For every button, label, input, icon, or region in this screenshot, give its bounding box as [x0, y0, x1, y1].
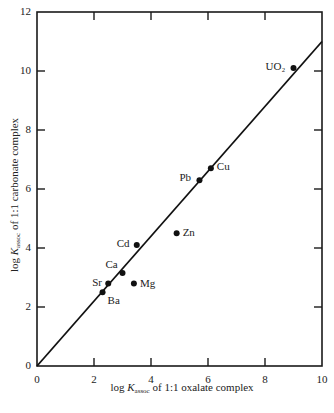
data-point-cu	[208, 165, 214, 171]
point-label: Pb	[179, 172, 191, 183]
point-label: Sr	[92, 277, 102, 288]
point-label: Ca	[106, 259, 118, 270]
data-point-ba	[100, 289, 106, 295]
x-axis-label: log Kassoc of 1:1 oxalate complex	[0, 381, 334, 395]
y-axis-label: log Kassoc of 1:1 carbonate complex	[8, 75, 22, 315]
data-point-zn	[174, 230, 180, 236]
data-point-pb	[196, 177, 202, 183]
data-point-uo	[291, 65, 297, 71]
regression-line	[37, 42, 322, 367]
point-label: UO₂	[266, 61, 286, 72]
y-tick-label: 12	[11, 6, 31, 17]
point-label: Ba	[108, 295, 120, 306]
point-label: Zn	[183, 227, 195, 238]
data-point-sr	[105, 280, 111, 286]
data-point-mg	[131, 280, 137, 286]
data-point-ca	[120, 270, 126, 276]
y-tick-label: 0	[11, 360, 31, 371]
point-label: Cu	[217, 161, 230, 172]
data-point-cd	[134, 242, 140, 248]
point-label: Cd	[117, 238, 130, 249]
point-label: Mg	[140, 278, 155, 289]
